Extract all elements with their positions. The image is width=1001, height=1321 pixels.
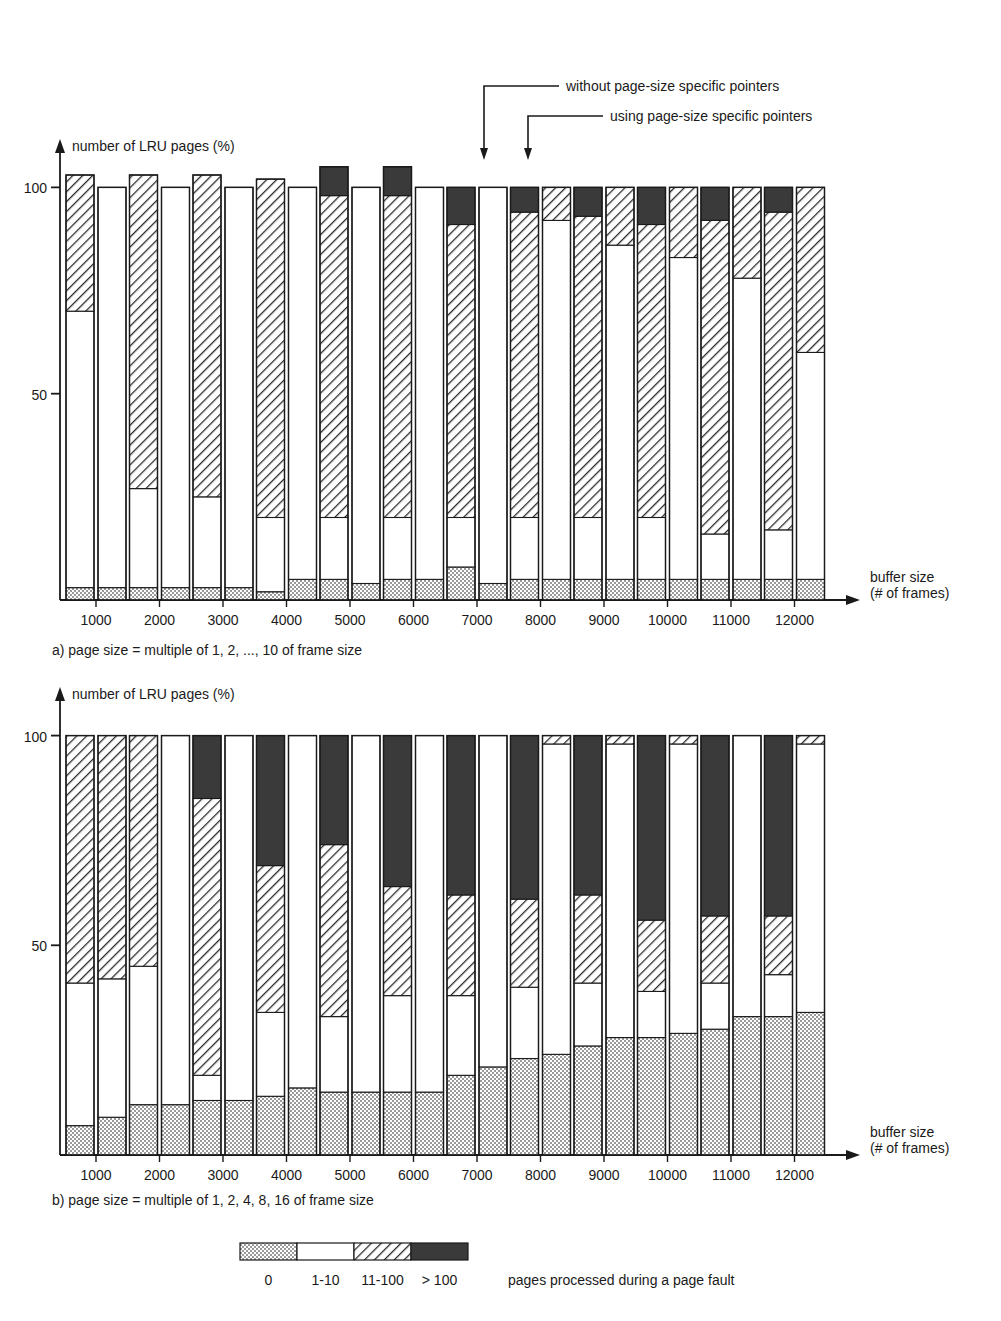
bar-segment	[66, 1126, 94, 1155]
bar	[320, 736, 348, 1155]
x-tick-label: 11000	[712, 612, 750, 628]
bar	[225, 736, 253, 1155]
bar-segment	[416, 579, 444, 600]
bar-segment	[289, 1088, 317, 1155]
bar-segment	[765, 736, 793, 916]
bar	[765, 187, 793, 600]
bar	[606, 736, 634, 1155]
bar	[416, 736, 444, 1155]
annotation-using-pointers: using page-size specific pointers	[524, 108, 812, 160]
y-axis-arrow	[55, 139, 65, 153]
bar-group	[384, 736, 444, 1155]
y-tick-label: 50	[31, 938, 47, 954]
bar-segment	[384, 736, 412, 887]
bar-segment	[66, 175, 94, 311]
x-tick-label: 11000	[712, 1167, 750, 1183]
bar	[352, 187, 380, 600]
bar-segment	[66, 588, 94, 600]
x-tick-label: 5000	[334, 1167, 365, 1183]
bar-segment	[701, 916, 729, 983]
bar-group	[130, 736, 190, 1155]
legend-swatch	[297, 1243, 354, 1260]
bar-group	[701, 187, 761, 600]
bar	[66, 175, 94, 600]
bar-group	[384, 167, 444, 600]
figure-root: 50100number of LRU pages (%)100020003000…	[0, 0, 1001, 1321]
bar-segment	[257, 1012, 285, 1096]
legend-title: pages processed during a page fault	[508, 1272, 735, 1288]
bar-segment	[289, 579, 317, 600]
bar-segment	[701, 220, 729, 534]
bar-segment	[479, 187, 507, 583]
x-tick-label: 8000	[525, 1167, 556, 1183]
bar	[511, 187, 539, 600]
bar	[130, 175, 158, 600]
bar-segment	[447, 517, 475, 567]
bar-segment	[511, 899, 539, 987]
bar-group	[574, 736, 634, 1155]
bar	[543, 187, 571, 600]
bar-segment	[130, 175, 158, 489]
bar-segment	[352, 736, 380, 1093]
x-tick-label: 2000	[144, 612, 175, 628]
bar-segment	[162, 1105, 190, 1155]
bar-segment	[670, 744, 698, 1033]
bar-segment	[638, 1038, 666, 1155]
bar	[797, 187, 825, 600]
x-tick-label: 12000	[775, 612, 814, 628]
bar-segment	[130, 736, 158, 967]
x-tick-label: 1000	[80, 1167, 111, 1183]
bar-segment	[733, 187, 761, 278]
y-tick-label: 100	[24, 180, 48, 196]
y-axis-arrow	[55, 687, 65, 701]
x-tick-label: 3000	[207, 612, 238, 628]
bar-segment	[66, 983, 94, 1126]
legend-label: 0	[265, 1272, 273, 1288]
annotation-using-pointers-label: using page-size specific pointers	[610, 108, 812, 124]
bar	[797, 736, 825, 1155]
bar-segment	[320, 1017, 348, 1092]
bar-segment	[670, 258, 698, 580]
bar-segment	[670, 187, 698, 257]
bar-segment	[193, 497, 221, 588]
bar	[638, 187, 666, 600]
bar-segment	[257, 866, 285, 1013]
bar-segment	[384, 887, 412, 996]
bar-segment	[797, 579, 825, 600]
bar-segment	[320, 579, 348, 600]
bar-segment	[98, 1117, 126, 1155]
bar-segment	[416, 736, 444, 1093]
bar	[733, 187, 761, 600]
bar-segment	[638, 991, 666, 1037]
bar	[130, 736, 158, 1155]
bar-segment	[447, 1075, 475, 1155]
bar-segment	[543, 220, 571, 579]
bar-segment	[257, 736, 285, 866]
bar-segment	[701, 736, 729, 916]
bar-segment	[130, 588, 158, 600]
bar-segment	[384, 196, 412, 518]
bar-segment	[193, 588, 221, 600]
bar-segment	[257, 517, 285, 591]
bar	[98, 187, 126, 600]
bar-group	[511, 187, 571, 600]
bar-segment	[352, 187, 380, 583]
bar-segment	[257, 179, 285, 517]
bar	[257, 736, 285, 1155]
bar-segment	[765, 916, 793, 975]
bar-group	[66, 736, 126, 1155]
bar	[701, 187, 729, 600]
bar-group	[638, 187, 698, 600]
x-tick-label: 10000	[648, 1167, 687, 1183]
bar-segment	[384, 167, 412, 196]
bar-segment	[701, 534, 729, 579]
bar-segment	[543, 187, 571, 220]
bar-segment	[733, 1017, 761, 1155]
bar-group	[765, 736, 825, 1155]
bar-segment	[638, 920, 666, 991]
bar-segment	[638, 736, 666, 921]
bar-segment	[765, 975, 793, 1017]
bar-group	[447, 187, 507, 600]
bar-segment	[447, 567, 475, 600]
bar-segment	[193, 1075, 221, 1100]
